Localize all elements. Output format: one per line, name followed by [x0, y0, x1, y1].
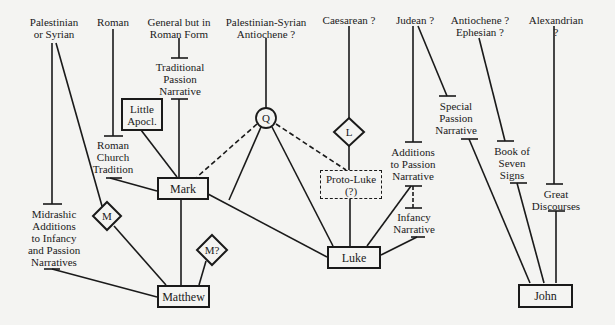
- label-palestinian-or-syrian: Palestinian or Syrian: [30, 16, 78, 40]
- label-general-roman-form: General but in Roman Form: [148, 16, 211, 40]
- label-roman-church-tradition: Roman Church Tradition: [93, 139, 134, 175]
- box-proto-luke: Proto-Luke (?): [320, 170, 382, 199]
- source-q-label: Q: [262, 112, 270, 124]
- label-alexandrian: Alexandrian ?: [527, 14, 586, 38]
- box-mark: Mark: [157, 177, 209, 200]
- source-l-label: L: [346, 126, 353, 138]
- label-midrashic-additions: Midrashic Additions to Infancy and Passi…: [28, 208, 80, 268]
- box-little-apocalypse: Little Apocl.: [121, 98, 163, 131]
- source-m-question-label: M?: [205, 244, 220, 256]
- box-luke: Luke: [327, 246, 381, 269]
- box-john: John: [518, 284, 573, 308]
- box-matthew: Matthew: [157, 285, 210, 308]
- label-additions-passion-narrative: Additions to Passion Narrative: [391, 146, 436, 182]
- label-antiochene-ephesian: Antiochene ? Ephesian ?: [451, 14, 509, 38]
- label-special-passion-narrative: Special Passion Narrative: [435, 100, 477, 136]
- label-traditional-passion-narrative: Traditional Passion Narrative: [156, 61, 205, 97]
- source-m-label: M: [102, 210, 112, 222]
- label-caesarean: Caesarean ?: [323, 14, 376, 26]
- label-judean: Judean ?: [396, 14, 434, 26]
- label-great-discourses: Great Discourses: [532, 188, 580, 212]
- label-palestinian-syrian-antiochene: Palestinian-Syrian Antiochene ?: [226, 16, 307, 40]
- label-roman: Roman: [97, 16, 129, 28]
- label-book-seven-signs: Book of Seven Signs: [494, 145, 530, 181]
- label-infancy-narrative: Infancy Narrative: [393, 211, 435, 235]
